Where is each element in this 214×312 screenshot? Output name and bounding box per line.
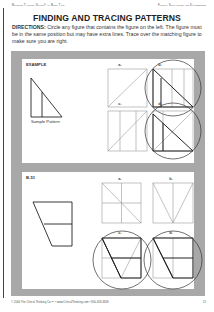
example-option-c-figure (108, 111, 147, 151)
example-option-a-figure (108, 69, 147, 107)
exercise-option-d-figure (144, 231, 202, 289)
sample-pattern-figure (31, 78, 62, 117)
exercise-option-a-figure (102, 183, 141, 223)
running-header-left: Building Thinking Skills® — Book Two (12, 3, 64, 7)
page-left-border (3, 8, 4, 298)
example-option-b-figure (145, 60, 201, 116)
directions-paragraph: DIRECTIONS: Circle any figure that conta… (12, 24, 208, 45)
exercise-panel: B-51 a. b. c. d. (22, 172, 194, 289)
directions-label: DIRECTIONS: (12, 24, 46, 30)
example-figures (22, 59, 194, 163)
example-panel: EXAMPLE Sample Pattern a. b. c. d. (22, 59, 194, 163)
example-option-d-figure (145, 103, 201, 159)
running-header-right: Figural Similarities and Differences (158, 3, 206, 7)
exercise-option-c-circle (93, 231, 151, 289)
page-number: 15 (203, 300, 206, 304)
exercise-option-c-figure (93, 231, 151, 289)
footer-copyright: © 2006 The Critical Thinking Co.™ • www.… (11, 300, 109, 304)
exercise-sample-figure (33, 202, 72, 246)
page-title: FINDING AND TRACING PATTERNS (0, 13, 214, 23)
exercise-figures (22, 172, 194, 289)
exercise-option-b-figure (153, 183, 193, 223)
